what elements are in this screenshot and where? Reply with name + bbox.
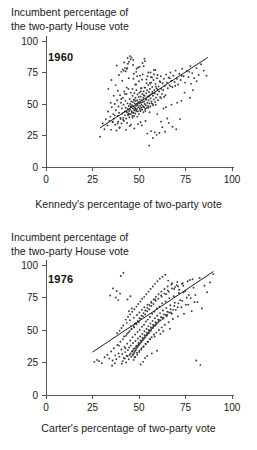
svg-text:100: 100 [224,402,241,413]
svg-text:0: 0 [32,162,38,173]
plot-area-1960: 02550751000255075100 [0,0,257,225]
x-axis-title-1976: Carter's percentage of two-party vote [0,422,257,434]
svg-text:50: 50 [27,99,39,110]
svg-text:25: 25 [27,130,39,141]
svg-text:75: 75 [27,292,39,303]
svg-text:100: 100 [21,36,38,47]
x-axis-title-1960: Kennedy's percentage of two-party vote [0,198,257,210]
svg-text:75: 75 [27,67,39,78]
chart-panel-1960: Incumbent percentage of the two-party Ho… [0,0,257,225]
svg-text:50: 50 [133,402,145,413]
plot-area-1976: 02550751000255075100 [0,225,257,450]
svg-text:75: 75 [180,402,192,413]
chart-panel-1976: Incumbent percentage of the two-party Ho… [0,225,257,450]
svg-text:25: 25 [87,174,99,185]
svg-text:0: 0 [43,174,49,185]
scatter-points [93,272,214,367]
scatter-svg-1960: 02550751000255075100 [0,0,257,200]
svg-text:75: 75 [180,174,192,185]
svg-text:25: 25 [27,357,39,368]
year-label-1976: 1976 [48,273,73,285]
svg-text:50: 50 [27,325,39,336]
svg-text:100: 100 [224,174,241,185]
regression-line [100,57,208,128]
scatter-svg-1976: 02550751000255075100 [0,225,257,425]
svg-text:25: 25 [87,402,99,413]
regression-line [93,272,214,353]
svg-text:50: 50 [133,174,145,185]
svg-text:0: 0 [43,402,49,413]
svg-text:100: 100 [21,260,38,271]
year-label-1960: 1960 [48,51,73,63]
svg-text:0: 0 [32,390,38,401]
scatter-points [99,55,207,146]
